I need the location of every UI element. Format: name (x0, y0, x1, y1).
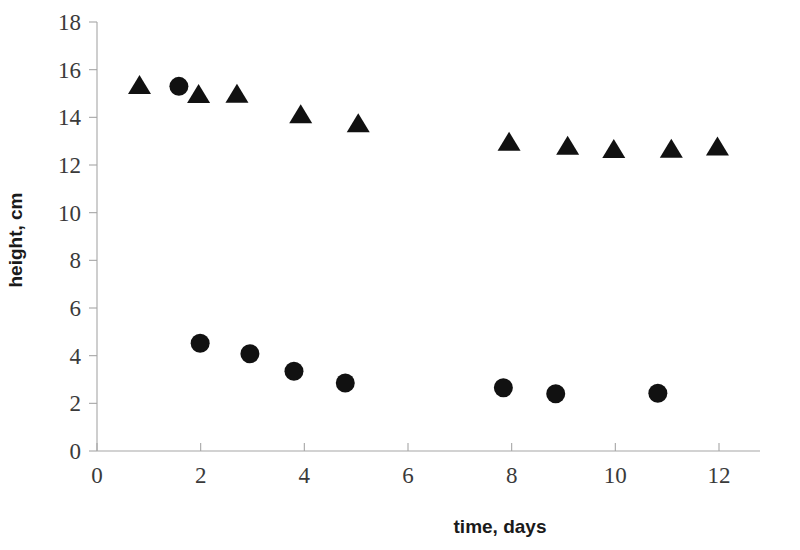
y-tick-label: 18 (58, 10, 81, 35)
y-tick-label: 14 (58, 105, 82, 130)
data-point-circle (494, 378, 513, 397)
x-tick-label: 6 (402, 463, 414, 488)
data-point-circle (169, 77, 188, 96)
data-point-circle (546, 384, 565, 403)
x-axis-title: time, days (454, 516, 547, 537)
data-point-circle (191, 334, 210, 353)
y-tick-label: 2 (70, 391, 82, 416)
y-tick-label: 4 (70, 344, 82, 369)
data-point-circle (336, 374, 355, 393)
scatter-plot: 024681012141618 024681012 time, days hei… (0, 0, 800, 550)
plot-background (0, 0, 800, 550)
chart-figure: 024681012141618 024681012 time, days hei… (0, 0, 800, 550)
x-tick-label: 8 (506, 463, 518, 488)
data-point-circle (648, 384, 667, 403)
x-tick-label: 2 (195, 463, 207, 488)
y-tick-label: 16 (58, 58, 81, 83)
x-tick-label: 0 (91, 463, 103, 488)
x-tick-label: 4 (299, 463, 311, 488)
y-tick-label: 6 (70, 296, 82, 321)
x-tick-label: 12 (708, 463, 731, 488)
y-tick-label: 10 (58, 201, 81, 226)
data-point-circle (284, 362, 303, 381)
y-tick-label: 8 (70, 248, 82, 273)
y-tick-label: 12 (58, 153, 81, 178)
data-point-circle (240, 344, 259, 363)
y-tick-label: 0 (70, 439, 82, 464)
x-tick-label: 10 (604, 463, 627, 488)
y-axis-title: height, cm (5, 192, 26, 287)
